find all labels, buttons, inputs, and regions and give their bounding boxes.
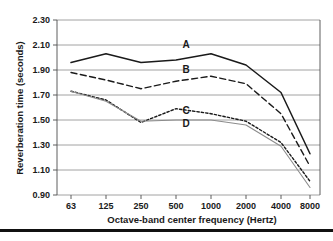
ytick-label-3: 1.70: [32, 90, 50, 100]
series-label-b: B: [182, 64, 189, 75]
ytick-label-2: 1.90: [32, 65, 50, 75]
xtick-label-1: 125: [98, 201, 113, 211]
xtick-label-3: 500: [168, 201, 183, 211]
xtick-label-7: 8000: [300, 201, 320, 211]
series-label-c: C: [182, 105, 189, 116]
chart-figure: 2.30 2.10 1.90 1.70 1.50 1.30 1.10 0.90 …: [0, 0, 333, 241]
xtick-label-6: 4000: [271, 201, 291, 211]
ytick-label-6: 1.10: [32, 165, 50, 175]
series-label-a: A: [182, 39, 189, 50]
ytick-label-7: 0.90: [32, 190, 50, 200]
ytick-label-5: 1.30: [32, 140, 50, 150]
x-axis-title: Octave-band center frequency (Hertz): [107, 214, 276, 225]
reverberation-time-line-chart: 2.30 2.10 1.90 1.70 1.50 1.30 1.10 0.90 …: [0, 0, 333, 241]
xtick-label-4: 1000: [201, 201, 221, 211]
xtick-label-0: 63: [66, 201, 76, 211]
bottom-divider-rule: [0, 229, 333, 232]
xtick-label-2: 250: [133, 201, 148, 211]
ytick-label-1: 2.10: [32, 40, 50, 50]
ytick-label-0: 2.30: [32, 15, 50, 25]
ytick-label-4: 1.50: [32, 115, 50, 125]
series-label-d: D: [182, 118, 189, 129]
y-axis-title: Reverberation time (seconds): [14, 41, 25, 175]
xtick-label-5: 2000: [236, 201, 256, 211]
